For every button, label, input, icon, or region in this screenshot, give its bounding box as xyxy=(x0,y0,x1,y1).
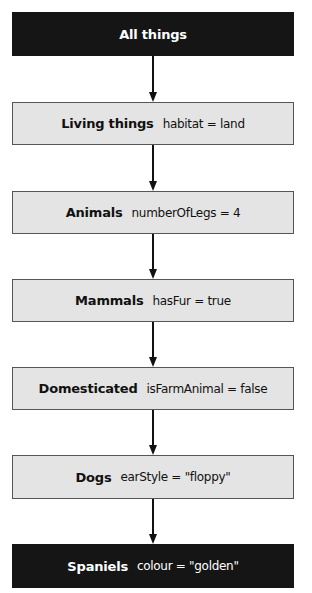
arrow-down-icon xyxy=(149,181,157,191)
node-name: Domesticated xyxy=(39,381,138,396)
node-attribute: hasFur = true xyxy=(152,294,230,308)
node-name: Dogs xyxy=(75,470,111,485)
arrow-down-icon xyxy=(149,445,157,455)
arrow-down-icon xyxy=(149,534,157,544)
arrow-shaft xyxy=(152,410,154,447)
node-spaniels: Spaniels colour = "golden" xyxy=(12,544,294,588)
arrow-shaft xyxy=(152,234,154,271)
node-domesticated: Domesticated isFarmAnimal = false xyxy=(12,367,294,410)
node-attribute: isFarmAnimal = false xyxy=(147,382,268,396)
arrow-down-icon xyxy=(149,357,157,367)
node-attribute: habitat = land xyxy=(163,117,245,131)
node-name: Mammals xyxy=(75,293,143,308)
node-living-things: Living things habitat = land xyxy=(12,102,294,145)
arrow-connector xyxy=(149,56,157,102)
node-dogs: Dogs earStyle = "floppy" xyxy=(12,455,294,499)
node-all-things: All things xyxy=(12,12,294,56)
arrow-down-icon xyxy=(149,92,157,102)
node-name: All things xyxy=(119,27,187,42)
node-name: Spaniels xyxy=(67,559,128,574)
node-name: Animals xyxy=(66,205,123,220)
arrow-shaft xyxy=(152,499,154,536)
arrow-shaft xyxy=(152,145,154,183)
node-mammals: Mammals hasFur = true xyxy=(12,279,294,322)
arrow-shaft xyxy=(152,322,154,359)
arrow-down-icon xyxy=(149,269,157,279)
arrow-connector xyxy=(149,499,157,544)
arrow-connector xyxy=(149,410,157,455)
node-attribute: earStyle = "floppy" xyxy=(120,470,230,484)
arrow-connector xyxy=(149,145,157,191)
arrow-shaft xyxy=(152,56,154,94)
node-name: Living things xyxy=(61,116,153,131)
arrow-connector xyxy=(149,322,157,367)
node-attribute: colour = "golden" xyxy=(137,559,239,573)
node-animals: Animals numberOfLegs = 4 xyxy=(12,191,294,234)
node-attribute: numberOfLegs = 4 xyxy=(132,206,241,220)
arrow-connector xyxy=(149,234,157,279)
